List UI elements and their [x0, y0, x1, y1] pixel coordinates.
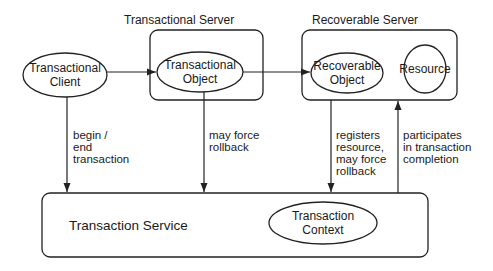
recoverable-object-label-1: Recoverable	[313, 59, 381, 73]
edge-label-line: may force	[209, 129, 260, 141]
transaction-context-node: Transaction Context	[269, 202, 377, 244]
resource-label: Resource	[399, 62, 451, 76]
edge-label-line: begin /	[73, 129, 108, 141]
recoverable-object-label-2: Object	[330, 73, 365, 87]
transaction-service-title: Transaction Service	[69, 218, 188, 233]
transaction-context-label-2: Context	[302, 223, 344, 237]
edge-label-line: may force	[336, 153, 387, 165]
edge-label-line: registers	[336, 129, 380, 141]
edge-label-line: rollback	[336, 165, 376, 177]
transactional-object-label-2: Object	[183, 72, 218, 86]
may-force-rollback-label: may force rollback	[209, 129, 260, 153]
transactional-client-label-2: Client	[50, 75, 81, 89]
recoverable-server-title: Recoverable Server	[312, 13, 418, 27]
edge-label-line: rollback	[209, 141, 249, 153]
transactional-object-label-1: Transactional	[164, 58, 236, 72]
edge-label-line: end	[73, 141, 92, 153]
transaction-architecture-diagram: Transactional Server Recoverable Server …	[0, 0, 493, 271]
transactional-server-title: Transactional Server	[124, 13, 234, 27]
registers-resource-label: registers resource, may force rollback	[336, 129, 387, 177]
recoverable-object-node: Recoverable Object	[311, 53, 383, 93]
transactional-object-node: Transactional Object	[157, 52, 243, 92]
transactional-client-label-1: Transactional	[29, 61, 101, 75]
edge-label-line: resource,	[336, 141, 384, 153]
edge-label-line: in transaction	[403, 141, 471, 153]
edge-label-line: completion	[403, 153, 459, 165]
resource-node: Resource	[399, 45, 451, 93]
transaction-context-label-1: Transaction	[292, 209, 354, 223]
edge-label-line: participates	[403, 129, 462, 141]
transactional-client-node: Transactional Client	[23, 53, 107, 97]
participates-label: participates in transaction completion	[403, 129, 471, 165]
edge-label-line: transaction	[73, 153, 129, 165]
begin-end-label: begin / end transaction	[73, 129, 129, 165]
